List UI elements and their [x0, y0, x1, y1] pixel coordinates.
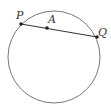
point-p: [19, 22, 23, 26]
label-a: A: [47, 13, 56, 26]
diagram-svg: PAQ: [0, 0, 111, 111]
chord-pq: [21, 24, 97, 37]
label-p: P: [15, 9, 24, 22]
points-group: PAQ: [15, 9, 107, 39]
geometry-diagram: PAQ: [0, 0, 111, 111]
label-q: Q: [98, 26, 107, 39]
point-a: [45, 26, 49, 30]
